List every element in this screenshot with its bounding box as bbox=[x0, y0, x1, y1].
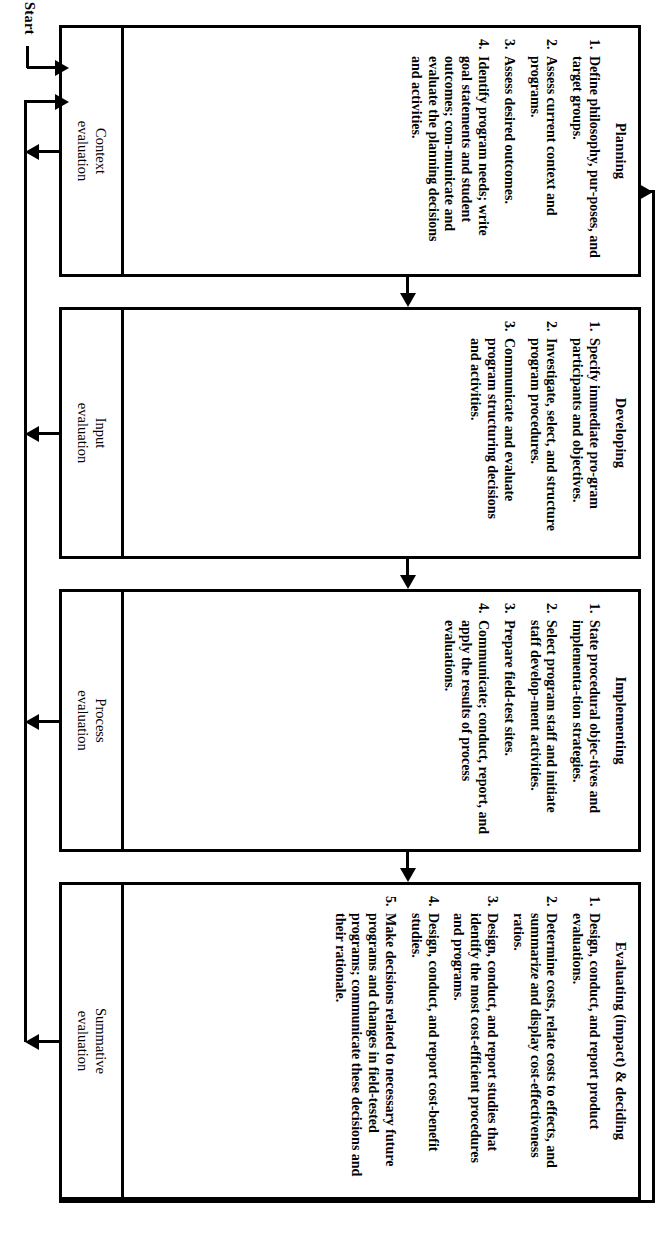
step-text: Prepare field-test sites. bbox=[500, 620, 517, 838]
panel-planning-title: Planning bbox=[612, 39, 629, 263]
list-item: 1. Define philosophy, pur‐poses, and tar… bbox=[568, 39, 602, 263]
step-number: 3. bbox=[450, 896, 500, 913]
evaluation-box-summative: Summative evaluation bbox=[62, 885, 124, 1197]
step-number: 3. bbox=[500, 603, 517, 620]
step-number: 3. bbox=[500, 39, 517, 56]
panel-evaluating-body: Evaluating (impact) & deciding 1. Design… bbox=[124, 885, 638, 1197]
arrowhead-implementing-to-evaluating bbox=[400, 868, 416, 882]
step-number: 4. bbox=[407, 896, 441, 913]
panel-evaluating-steps: 1. Design, conduct, and report product e… bbox=[331, 896, 602, 1186]
arrowhead-developing-to-implementing bbox=[400, 575, 416, 589]
step-text: Communicate; conduct, report, and apply … bbox=[441, 620, 491, 838]
panel-implementing-title: Implementing bbox=[612, 603, 629, 838]
flowchart-board: Planning 1. Define philosophy, pur‐poses… bbox=[0, 0, 665, 1256]
step-text: Assess current context and programs. bbox=[526, 56, 560, 263]
panel-developing: Developing 1. Specify immediate pro‐gram… bbox=[59, 307, 641, 559]
eval-out-input bbox=[37, 432, 59, 435]
arrowhead-start-into-planning bbox=[55, 60, 69, 76]
step-text: Design, conduct, and report product eval… bbox=[568, 913, 602, 1186]
panel-developing-title: Developing bbox=[612, 321, 629, 545]
step-number: 4. bbox=[441, 603, 491, 620]
top-feedback-riser-from-evaluating bbox=[59, 1200, 655, 1203]
list-item: 3. Assess desired outcomes. bbox=[500, 39, 517, 263]
step-text: Make decisions related to necessary futu… bbox=[331, 913, 398, 1186]
step-number: 2. bbox=[526, 39, 560, 56]
eval-out-process bbox=[37, 720, 59, 723]
evaluation-label-line1: Context bbox=[92, 121, 110, 181]
arrowhead-eval-out-input bbox=[25, 426, 39, 442]
step-number: 2. bbox=[526, 603, 560, 620]
panel-developing-steps: 1. Specify immediate pro‐gram participan… bbox=[466, 321, 602, 545]
step-number: 2. bbox=[526, 321, 560, 338]
list-item: 2. Select program staff and initiate sta… bbox=[526, 603, 560, 838]
evaluation-label-line2: evaluation bbox=[74, 1008, 92, 1074]
list-item: 4. Identify program needs; write goal st… bbox=[407, 39, 491, 263]
list-item: 2. Investigate, select, and structure pr… bbox=[526, 321, 560, 545]
list-item: 2. Assess current context and programs. bbox=[526, 39, 560, 263]
diagram-canvas: Planning 1. Define philosophy, pur‐poses… bbox=[0, 0, 665, 1256]
step-text: Investigate, select, and structure progr… bbox=[526, 338, 560, 545]
panel-planning: Planning 1. Define philosophy, pur‐poses… bbox=[59, 25, 641, 277]
panel-planning-steps: 1. Define philosophy, pur‐poses, and tar… bbox=[407, 39, 602, 263]
list-item: 1. State procedural objec‐tives and impl… bbox=[568, 603, 602, 838]
arrowhead-eval-out-context bbox=[25, 144, 39, 160]
arrowhead-eval-out-process bbox=[25, 714, 39, 730]
step-number: 5. bbox=[331, 896, 398, 913]
step-text: State procedural objec‐tives and impleme… bbox=[568, 620, 602, 838]
arrowhead-top-feedback-into-planning bbox=[639, 184, 653, 200]
step-text: Select program staff and initiate staff … bbox=[526, 620, 560, 838]
list-item: 4. Design, conduct, and report cost-bene… bbox=[407, 896, 441, 1186]
panel-developing-body: Developing 1. Specify immediate pro‐gram… bbox=[124, 310, 638, 556]
feedback-bus-riser-to-planning bbox=[25, 100, 59, 103]
list-item: 5. Make decisions related to necessary f… bbox=[331, 896, 398, 1186]
step-number: 1. bbox=[568, 896, 602, 913]
panel-evaluating: Evaluating (impact) & deciding 1. Design… bbox=[59, 882, 641, 1200]
step-text: Specify immediate pro‐gram participants … bbox=[568, 338, 602, 545]
evaluation-label-line1: Input bbox=[92, 403, 110, 463]
step-number: 1. bbox=[568, 603, 602, 620]
evaluation-box-process: Process evaluation bbox=[62, 592, 124, 849]
eval-out-context bbox=[37, 150, 59, 153]
list-item: 2. Determine costs, relate costs to effe… bbox=[509, 896, 559, 1186]
arrowhead-planning-to-developing bbox=[400, 293, 416, 307]
arrowhead-feedback-into-planning bbox=[55, 94, 69, 110]
evaluation-label-line1: Process bbox=[92, 690, 110, 750]
list-item: 4. Communicate; conduct, report, and app… bbox=[441, 603, 491, 838]
list-item: 1. Specify immediate pro‐gram participan… bbox=[568, 321, 602, 545]
evaluation-label-line1: Summative bbox=[92, 1008, 110, 1074]
list-item: 3. Communicate and evaluate program stru… bbox=[466, 321, 516, 545]
list-item: 3. Design, conduct, and report studies t… bbox=[450, 896, 500, 1186]
arrowhead-eval-out-summative bbox=[25, 1034, 39, 1050]
start-stem bbox=[26, 46, 29, 68]
panel-planning-body: Planning 1. Define philosophy, pur‐poses… bbox=[124, 28, 638, 274]
feedback-bus-bottom bbox=[24, 100, 27, 1042]
evaluation-label-line2: evaluation bbox=[74, 690, 92, 750]
evaluation-label-line2: evaluation bbox=[74, 403, 92, 463]
panel-implementing-steps: 1. State procedural objec‐tives and impl… bbox=[441, 603, 602, 838]
panel-implementing: Implementing 1. State procedural objec‐t… bbox=[59, 589, 641, 852]
step-text: Determine costs, relate costs to effects… bbox=[509, 913, 559, 1186]
step-text: Define philosophy, pur‐poses, and target… bbox=[568, 56, 602, 263]
step-number: 4. bbox=[407, 39, 491, 56]
step-text: Design, conduct, and report studies that… bbox=[450, 913, 500, 1186]
step-number: 1. bbox=[568, 321, 602, 338]
list-item: 3. Prepare field-test sites. bbox=[500, 603, 517, 838]
step-text: Identify program needs; write goal state… bbox=[407, 56, 491, 263]
step-number: 1. bbox=[568, 39, 602, 56]
connector-implementing-to-evaluating bbox=[406, 852, 409, 868]
top-feedback-bus bbox=[652, 190, 655, 1203]
evaluation-box-context: Context evaluation bbox=[62, 28, 124, 274]
eval-out-summative bbox=[37, 1040, 59, 1043]
step-text: Communicate and evaluate program structu… bbox=[466, 338, 516, 545]
step-number: 2. bbox=[509, 896, 559, 913]
evaluation-box-input: Input evaluation bbox=[62, 310, 124, 556]
start-label: Start bbox=[21, 2, 38, 35]
panel-implementing-body: Implementing 1. State procedural objec‐t… bbox=[124, 592, 638, 849]
step-text: Assess desired outcomes. bbox=[500, 56, 517, 263]
panel-evaluating-title: Evaluating (impact) & deciding bbox=[612, 896, 629, 1186]
step-text: Design, conduct, and report cost-benefit… bbox=[407, 913, 441, 1186]
evaluation-label-line2: evaluation bbox=[74, 121, 92, 181]
list-item: 1. Design, conduct, and report product e… bbox=[568, 896, 602, 1186]
step-number: 3. bbox=[466, 321, 516, 338]
connector-developing-to-implementing bbox=[406, 559, 409, 575]
